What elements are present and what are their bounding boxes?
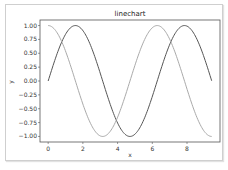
x-axis: 02468 bbox=[46, 142, 189, 152]
y-tick-label: 0.50 bbox=[24, 49, 38, 56]
series-line-cos bbox=[48, 26, 212, 137]
y-tick-label: 0.25 bbox=[24, 63, 38, 70]
line-chart: linechart 1.000.750.500.250.00−0.25−0.50… bbox=[0, 0, 228, 170]
x-tick-label: 6 bbox=[150, 145, 154, 152]
y-tick-label: 0.75 bbox=[24, 35, 38, 42]
x-tick-label: 0 bbox=[46, 145, 50, 152]
y-tick-label: −0.50 bbox=[19, 105, 38, 112]
x-tick-label: 4 bbox=[116, 145, 120, 152]
x-tick-label: 8 bbox=[185, 145, 189, 152]
y-tick-label: −0.25 bbox=[19, 91, 38, 98]
x-axis-label: x bbox=[128, 151, 132, 158]
y-axis: 1.000.750.500.250.00−0.25−0.50−0.75−1.00 bbox=[19, 22, 40, 140]
chart-title: linechart bbox=[115, 10, 146, 18]
x-tick-label: 2 bbox=[81, 145, 85, 152]
y-tick-label: −0.75 bbox=[19, 119, 38, 126]
series-lines bbox=[48, 26, 212, 137]
y-tick-label: −1.00 bbox=[19, 132, 38, 139]
y-axis-label: y bbox=[7, 80, 15, 84]
y-tick-label: 1.00 bbox=[24, 22, 38, 29]
y-tick-label: 0.00 bbox=[24, 77, 38, 84]
